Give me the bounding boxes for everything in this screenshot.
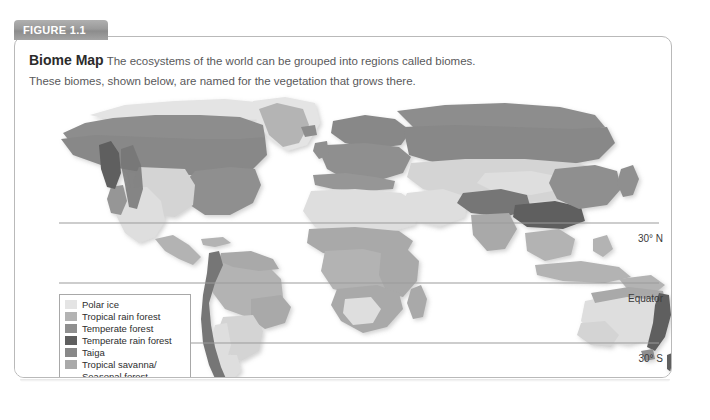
legend-swatch xyxy=(65,348,77,357)
legend-label: Temperate rain forest xyxy=(82,335,172,347)
legend-swatch xyxy=(65,324,77,333)
figure-frame: Biome Map The ecosystems of the world ca… xyxy=(14,36,672,378)
figure-caption: Biome Map The ecosystems of the world ca… xyxy=(29,51,629,90)
figure-number-tab: FIGURE 1.1 xyxy=(14,20,108,40)
legend-item: Tropical rain forest xyxy=(65,311,186,323)
legend-item: Taiga xyxy=(65,347,186,359)
legend-label: Tropical rain forest xyxy=(82,311,160,323)
map-legend: Polar iceTropical rain forestTemperate f… xyxy=(59,294,191,378)
legend-label: Tropical savanna/ xyxy=(82,359,157,371)
figure-number-label: FIGURE 1.1 xyxy=(23,24,86,36)
legend-swatch xyxy=(65,312,77,321)
figure-title: Biome Map xyxy=(29,52,104,68)
caption-description-line-2: These biomes, shown below, are named for… xyxy=(29,72,629,90)
latitude-label-equator: Equator xyxy=(628,293,663,304)
caption-line-1: Biome Map The ecosystems of the world ca… xyxy=(29,51,629,70)
frame-drop-shadow xyxy=(20,379,670,382)
legend-item: Temperate forest xyxy=(65,323,186,335)
legend-label: Polar ice xyxy=(82,299,119,311)
region-desert-sahara xyxy=(303,189,419,233)
world-biome-map: 30° N Equator 30° S Polar iceTropical ra… xyxy=(15,93,671,378)
legend-swatch xyxy=(65,360,77,369)
legend-item: Tropical savanna/ xyxy=(65,359,186,371)
legend-label: Taiga xyxy=(82,347,105,359)
legend-label-continuation: Seasonal forest xyxy=(65,371,186,378)
legend-item: Polar ice xyxy=(65,299,186,311)
legend-item: Temperate rain forest xyxy=(65,335,186,347)
legend-swatch xyxy=(65,336,77,345)
caption-description-line-1: The ecosystems of the world can be group… xyxy=(107,55,476,67)
legend-swatch xyxy=(65,300,77,309)
latitude-label-30n: 30° N xyxy=(638,233,663,244)
legend-label: Temperate forest xyxy=(82,323,153,335)
latitude-label-30s: 30° S xyxy=(638,353,663,364)
